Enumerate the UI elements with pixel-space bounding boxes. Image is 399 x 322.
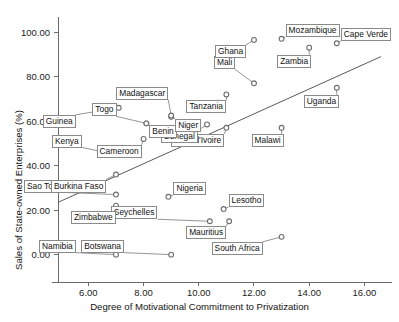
data-point: [141, 137, 146, 142]
data-point: [114, 172, 119, 177]
point-label: Togo: [92, 103, 116, 116]
label-leader-line: [124, 253, 171, 255]
point-label: Namibia: [39, 240, 76, 253]
x-axis-title: Degree of Motivational Commitment to Pri…: [0, 301, 399, 312]
y-axis-title: Sales of State-owned Enterprises (%): [13, 110, 24, 270]
data-point: [334, 85, 339, 90]
data-point: [221, 207, 226, 212]
point-label: Niger: [175, 119, 201, 132]
data-point: [252, 81, 257, 86]
point-label: Zambia: [277, 55, 311, 68]
data-point: [116, 105, 121, 110]
point-label: South Africa: [212, 242, 263, 255]
data-point: [224, 92, 229, 97]
data-point: [227, 219, 232, 224]
x-tick-label: 14.00: [297, 287, 321, 298]
x-tick-label: 10.00: [187, 287, 211, 298]
point-label: Cameroon: [97, 145, 142, 158]
point-label: Ghana: [215, 45, 246, 58]
data-point: [169, 113, 174, 118]
data-point: [279, 234, 284, 239]
y-tick-label: 40.00: [26, 160, 50, 171]
y-tick-label: 80.00: [26, 71, 50, 82]
point-label: Mauritius: [186, 226, 226, 239]
point-label: Lesotho: [229, 194, 265, 207]
x-tick-label: 12.00: [242, 287, 266, 298]
point-label: Nigeria: [173, 182, 206, 195]
data-point: [166, 194, 171, 199]
data-point: [252, 38, 257, 43]
data-point: [279, 36, 284, 41]
x-tick-label: 8.00: [134, 287, 153, 298]
point-label: Mozambique: [286, 24, 340, 37]
label-leader-line: [76, 253, 116, 255]
regression-line: [58, 57, 381, 203]
label-leader-line: [158, 219, 210, 221]
data-point: [307, 45, 312, 50]
data-point: [279, 125, 284, 130]
data-point: [207, 219, 212, 224]
y-tick-label: 20.00: [26, 205, 50, 216]
point-label: Botswana: [81, 240, 124, 253]
data-point: [205, 122, 210, 127]
point-label: Uganda: [304, 95, 339, 108]
scatter-plot-figure: 0.0020.0040.0060.0080.00100.006.008.0010…: [0, 0, 399, 322]
x-tick-label: 16.00: [353, 287, 377, 298]
plot-canvas: 0.0020.0040.0060.0080.00100.006.008.0010…: [0, 0, 399, 322]
point-label: Tanzania: [186, 100, 226, 113]
data-point: [169, 252, 174, 257]
point-label: Zimbabwe: [71, 211, 116, 224]
point-label: Madagascar: [116, 87, 168, 100]
point-label: Guinea: [43, 115, 76, 128]
point-label: Seychelles: [111, 206, 158, 219]
point-label: Benin: [149, 125, 176, 138]
data-point: [224, 125, 229, 130]
y-tick-label: 100.00: [21, 27, 50, 38]
data-point: [144, 121, 149, 126]
data-point: [114, 192, 119, 197]
data-point: [114, 252, 119, 257]
label-leader-line: [116, 116, 146, 123]
point-label: Kenya: [52, 135, 82, 148]
x-tick-label: 6.00: [79, 287, 98, 298]
data-point: [334, 41, 339, 46]
label-leader-line: [235, 69, 254, 83]
point-label: Burkina Faso: [51, 180, 106, 193]
point-label: Malawi: [252, 134, 284, 147]
point-label: Mali: [214, 56, 235, 69]
point-label: Cape Verde: [341, 28, 391, 41]
